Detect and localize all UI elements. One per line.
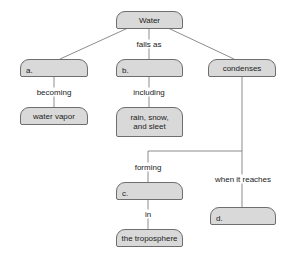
node-water: Water xyxy=(116,11,183,29)
node-d-blank[interactable]: d. xyxy=(210,207,276,225)
link-forming: forming xyxy=(134,163,163,172)
node-water-vapor-label: water vapor xyxy=(33,112,75,121)
node-a-blank[interactable]: a. xyxy=(20,59,88,77)
node-condenses: condenses xyxy=(208,59,276,77)
link-in: in xyxy=(144,210,152,219)
node-rain-snow-sleet: rain, snow, and sleet xyxy=(116,107,183,137)
link-falls-as: falls as xyxy=(136,40,163,49)
node-c-label: c. xyxy=(122,189,128,198)
link-becoming: becoming xyxy=(36,88,73,97)
node-troposphere-label: the troposphere xyxy=(121,234,177,243)
node-d-label: d. xyxy=(216,214,223,223)
node-troposphere: the troposphere xyxy=(116,229,183,247)
node-a-label: a. xyxy=(26,66,33,75)
node-c-blank[interactable]: c. xyxy=(116,182,183,200)
node-rain-label: rain, snow, and sleet xyxy=(127,113,172,131)
node-water-label: Water xyxy=(139,16,160,25)
link-including: including xyxy=(132,88,166,97)
node-b-blank[interactable]: b. xyxy=(116,59,183,77)
node-water-vapor: water vapor xyxy=(20,107,88,125)
node-b-label: b. xyxy=(122,66,129,75)
node-condenses-label: condenses xyxy=(223,64,262,73)
link-when-it-reaches: when it reaches xyxy=(214,175,272,184)
